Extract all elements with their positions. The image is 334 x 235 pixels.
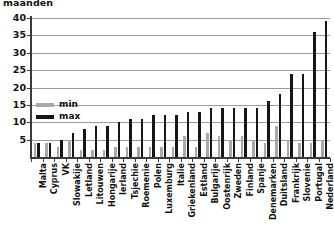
bar-group (296, 18, 308, 157)
bar-max (175, 115, 178, 157)
bar-min (321, 140, 324, 157)
bar-min (149, 147, 152, 157)
x-axis-label: Spanje (258, 163, 266, 194)
x-tick-mark (238, 158, 239, 162)
x-axis-label: Oostenrijk (224, 163, 232, 210)
bar-max (302, 74, 305, 157)
x-tick-mark (43, 158, 44, 162)
bar-max (267, 101, 270, 157)
x-tick-mark (135, 158, 136, 162)
x-axis-label: Tsjechie (132, 163, 140, 199)
chart-legend: min max (36, 100, 80, 121)
x-tick-mark (261, 158, 262, 162)
y-axis-line (30, 16, 32, 159)
x-axis-labels: MaltaCyprusVKSlowakijeLetlandLitouwenHon… (31, 163, 330, 235)
x-tick-mark (192, 158, 193, 162)
x-tick-mark (215, 158, 216, 162)
bar-max (290, 74, 293, 157)
x-tick-mark (181, 158, 182, 162)
bar-group (284, 18, 296, 157)
bar-group (204, 18, 216, 157)
bar-group (66, 18, 78, 157)
bar-group (100, 18, 112, 157)
bar-max (256, 108, 259, 157)
y-tick-label: 35 (0, 30, 26, 40)
bar-group (181, 18, 193, 157)
y-tick-label: 10 (0, 117, 26, 127)
x-tick-mark (227, 158, 228, 162)
bar-min (45, 143, 48, 157)
x-axis-label: Letland (86, 163, 94, 197)
x-axis-label: Slowakije (74, 163, 82, 206)
legend-label-max: max (59, 112, 80, 121)
bar-group (158, 18, 170, 157)
x-tick-mark (146, 158, 147, 162)
x-axis-label: Duitsland (281, 163, 289, 206)
bar-min (206, 133, 209, 157)
x-axis-label: Luxemburg (166, 163, 174, 214)
bar-max (83, 129, 86, 157)
x-tick-mark (89, 158, 90, 162)
x-axis-label: VK (63, 163, 71, 175)
bar-group (273, 18, 285, 157)
bar-min (264, 143, 267, 157)
x-tick-mark (169, 158, 170, 162)
x-axis-label: Ierland (120, 163, 128, 195)
legend-item-max: max (36, 112, 80, 121)
bar-max (210, 108, 213, 157)
legend-swatch-min-icon (36, 103, 54, 107)
y-tick-label: 30 (0, 48, 26, 58)
bar-min (252, 140, 255, 157)
x-tick-mark (158, 158, 159, 162)
legend-item-min: min (36, 100, 80, 109)
x-tick-mark (273, 158, 274, 162)
x-tick-mark (319, 158, 320, 162)
bar-min (195, 147, 198, 157)
x-axis-label: Malta (40, 163, 48, 188)
plot-area (31, 18, 330, 157)
bar-min (80, 150, 83, 157)
x-tick-mark (66, 158, 67, 162)
y-tick-label: 40 (0, 13, 26, 23)
bar-max (244, 108, 247, 157)
bar-chart: maanden 510152025303540 MaltaCyprusVKSlo… (0, 0, 334, 235)
bar-max (233, 108, 236, 157)
bar-min (241, 136, 244, 157)
x-axis-label: Frankrijk (293, 163, 301, 203)
bar-min (114, 147, 117, 157)
bar-min (34, 143, 37, 157)
bar-min (91, 150, 94, 157)
y-tick-label: 5 (0, 135, 26, 145)
x-axis-label: Litouwen (97, 163, 105, 204)
bar-min (229, 140, 232, 157)
x-tick-mark (123, 158, 124, 162)
bar-group (227, 18, 239, 157)
bar-group (169, 18, 181, 157)
x-axis-label: Griekenland (189, 163, 197, 217)
x-axis-label: Bulgarije (212, 163, 220, 204)
bar-group (43, 18, 55, 157)
bar-max (95, 126, 98, 157)
bar-group (123, 18, 135, 157)
bar-max (72, 133, 75, 157)
legend-label-min: min (59, 100, 78, 109)
x-tick-mark (204, 158, 205, 162)
bar-group (89, 18, 101, 157)
bar-max (198, 112, 201, 157)
bar-min (68, 140, 71, 157)
bar-max (141, 119, 144, 157)
x-axis-label: Denemarken (270, 163, 278, 220)
bar-group (261, 18, 273, 157)
x-axis-label: Polen (155, 163, 163, 188)
x-tick-mark (77, 158, 78, 162)
bar-group (250, 18, 262, 157)
bar-max (164, 115, 167, 157)
bar-group (192, 18, 204, 157)
bar-min (287, 140, 290, 157)
x-tick-mark (296, 158, 297, 162)
x-tick-mark (31, 158, 32, 162)
bar-group (54, 18, 66, 157)
bar-group (31, 18, 43, 157)
bar-max (106, 126, 109, 157)
x-axis-label: Roemenie (143, 163, 151, 208)
